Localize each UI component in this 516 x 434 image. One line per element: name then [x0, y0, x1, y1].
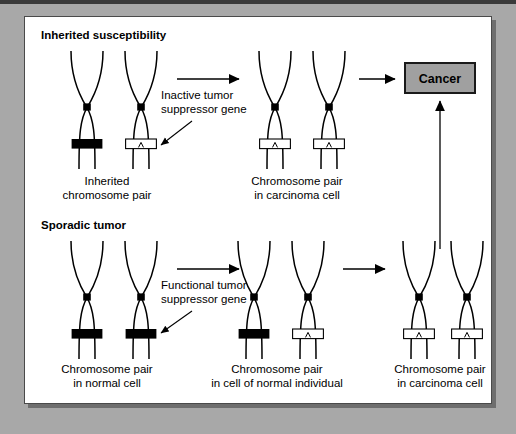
label-inherited-carcinoma-line2: in carcinoma cell	[254, 189, 340, 201]
chromosome-sporadic-normal-a	[71, 241, 103, 359]
annotation-pointer-inherited	[161, 121, 192, 145]
annotation-inherited-line2: suppressor gene	[161, 103, 247, 115]
annotation-sporadic-line1: Functional tumor	[161, 279, 247, 291]
chromosome-sporadic-normal-b	[125, 241, 157, 359]
band-active	[72, 329, 103, 339]
chromosome-sporadic-normalind-b	[292, 241, 324, 359]
section-title-inherited: Inherited susceptibility	[41, 29, 167, 41]
label-sporadic-carcinoma-line2: in carcinoma cell	[397, 377, 483, 389]
label-sporadic-normal-line1: Chromosome pair	[61, 363, 153, 375]
annotation-pointer-sporadic	[161, 311, 192, 333]
label-sporadic-normalind-line2: in cell of normal individual	[211, 377, 343, 389]
figure-panel: Inherited susceptibility Sporadic tumor …	[24, 16, 492, 404]
band-inactive	[314, 139, 345, 149]
band-active	[126, 329, 157, 339]
annotation-sporadic-line2: suppressor gene	[161, 293, 247, 305]
band-active	[72, 139, 103, 149]
chromosome-inherited-b	[125, 51, 157, 169]
label-inherited-carcinoma-line1: Chromosome pair	[251, 175, 343, 187]
label-sporadic-normalind-line1: Chromosome pair	[231, 363, 323, 375]
band-inactive	[452, 329, 483, 339]
label-inherited-pair-line2: chromosome pair	[63, 189, 152, 201]
label-inherited-pair-line1: Inherited	[85, 175, 130, 187]
annotation-inherited-line1: Inactive tumor	[161, 89, 233, 101]
diagram-canvas: Inherited susceptibility Sporadic tumor …	[25, 17, 491, 403]
band-inactive	[260, 139, 291, 149]
band-active	[239, 329, 270, 339]
cancer-box-label: Cancer	[419, 72, 462, 86]
chromosome-inherited-carcinoma-b	[313, 51, 345, 169]
chromosome-inherited-carcinoma-a	[259, 51, 291, 169]
top-rule	[0, 0, 516, 4]
chromosome-inherited-a	[71, 51, 103, 169]
band-inactive	[126, 139, 157, 149]
chromosome-sporadic-carcinoma-a	[403, 241, 435, 359]
chromosome-sporadic-carcinoma-b	[451, 241, 483, 359]
cancer-box[interactable]: Cancer	[405, 63, 475, 93]
label-sporadic-carcinoma-line1: Chromosome pair	[394, 363, 486, 375]
label-sporadic-normal-line2: in normal cell	[73, 377, 141, 389]
section-title-sporadic: Sporadic tumor	[41, 219, 127, 231]
band-inactive	[293, 329, 324, 339]
band-inactive	[404, 329, 435, 339]
